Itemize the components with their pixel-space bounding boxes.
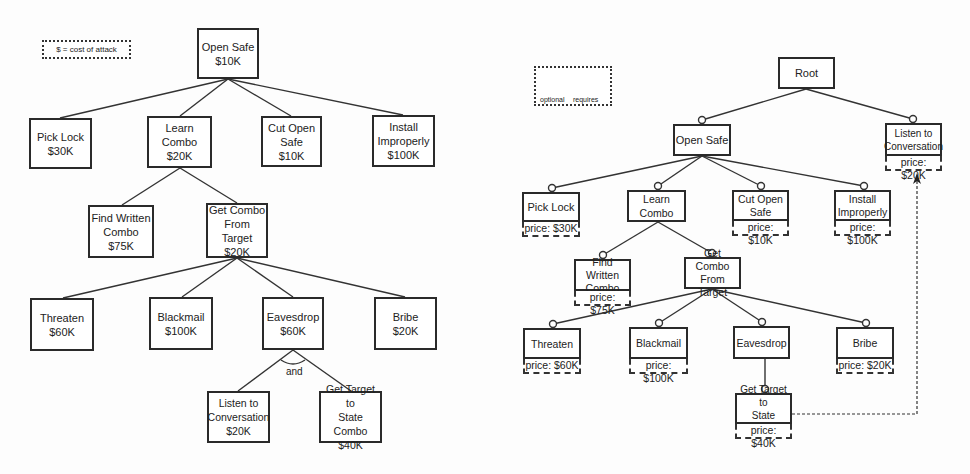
node-cost: $20K [224,245,250,259]
node-label: Pick Lock [37,130,84,144]
right-node-learn-combo: Learn Combo [627,190,686,222]
node-cost: $10K [215,54,241,68]
node-cost: $30K [48,144,74,158]
node-label: Bribe [853,336,878,350]
node-label: Cut Open Safe [738,193,783,219]
node-label: Blackmail [636,336,681,350]
right-node-get-target-to-state-combo: Get Target to State Combo [735,393,792,424]
node-label: Listen to Conversation [884,127,943,153]
node-cost: $60K [49,325,75,339]
right-node-blackmail: Blackmail [629,327,688,359]
right-node-cut-open-safe: Cut Open Safe [732,190,789,221]
node-label: Pick Lock [527,200,574,214]
node-label: Blackmail [157,310,204,324]
node-label: Get Combo From Target [686,247,739,299]
price-tag: price: $20K [836,359,894,374]
node-cost: $40K [338,438,363,452]
node-cost: $100K [165,324,197,338]
node-cost: $20K [167,149,193,163]
node-label: Find Written Combo [91,211,150,239]
and-gate-label: and [286,366,303,377]
left-node-install-improperly: Install Improperly $100K [372,115,435,167]
right-node-bribe: Bribe [836,327,894,359]
feature-legend: optional requires [534,66,612,106]
node-label: Eavesdrop [267,310,320,324]
node-label: Threaten [40,311,84,325]
node-cost: $75K [108,239,134,253]
right-node-eavesdrop: Eavesdrop [733,326,790,359]
left-node-pick-lock: Pick Lock $30K [29,118,92,169]
price-tag: price: $100K [629,359,688,374]
node-label: Root [795,66,818,80]
right-node-get-combo-from-target: Get Combo From Target [684,257,741,289]
price-tag: price: $20K [885,156,942,171]
price-tag: price: $100K [834,221,891,236]
node-label: Threaten [531,337,573,351]
left-node-get-target-to-state-combo: Get Target to State Combo $40K [319,391,382,443]
node-label: Get Target to State Combo [321,382,380,438]
node-label: Get Combo From Target [208,203,266,245]
price-tag: price: $10K [732,221,789,236]
price-tag: price: $60K [523,359,581,374]
node-label: Open Safe [202,40,255,54]
node-cost: $10K [279,149,305,163]
left-node-find-written-combo: Find Written Combo $75K [88,205,154,258]
node-cost: $60K [280,324,306,338]
right-node-find-written-combo: Find Written Combo [574,259,631,291]
left-node-eavesdrop: Eavesdrop $60K [262,297,324,350]
cost-legend-text: $ = cost of attack [56,45,117,54]
legend-optional-label: optional [540,96,565,103]
cost-legend: $ = cost of attack [42,40,131,59]
attack-tree-figure: $ = cost of attack Open Safe $10K Pick L… [0,0,970,474]
right-node-threaten: Threaten [523,328,581,359]
left-node-get-combo-from-target: Get Combo From Target $20K [206,203,268,258]
node-label: Learn Combo [629,192,684,220]
right-node-install-improperly: Install Improperly [834,190,891,221]
left-node-cut-open-safe: Cut Open Safe $10K [261,116,322,167]
node-label: Listen to Conversation [208,396,270,424]
right-node-pick-lock: Pick Lock [522,192,580,222]
node-label: Open Safe [676,133,729,147]
left-node-blackmail: Blackmail $100K [149,297,213,350]
left-node-learn-combo: Learn Combo $20K [147,116,212,168]
node-cost: $20K [393,324,419,338]
left-node-listen-to-conversation: Listen to Conversation $20K [207,391,270,443]
node-label: Learn Combo [149,121,210,149]
node-label: Install Improperly [838,193,888,219]
price-tag: price: $30K [522,222,580,237]
node-label: Eavesdrop [736,336,786,350]
node-label: Install Improperly [378,120,430,148]
right-node-root: Root [778,57,835,89]
node-label: Bribe [393,310,419,324]
node-label: Find Written Combo [576,256,629,295]
left-node-open-safe: Open Safe $10K [197,28,259,79]
left-node-bribe: Bribe $20K [374,297,437,350]
node-cost: $100K [388,148,420,162]
right-node-listen-to-conversation: Listen to Conversation [885,123,942,156]
price-tag: price: $75K [574,291,631,306]
right-node-open-safe: Open Safe [673,124,731,156]
price-tag: price: $40K [735,424,792,439]
node-label: Cut Open Safe [268,121,315,149]
left-node-threaten: Threaten $60K [30,298,94,351]
legend-requires-label: requires [573,96,598,103]
node-cost: $20K [226,424,251,438]
